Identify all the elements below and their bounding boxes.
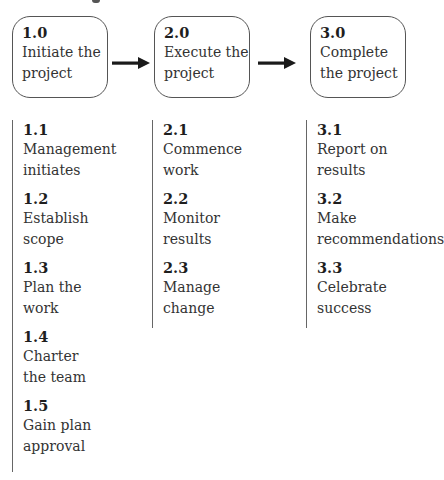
task-number: 3.3	[317, 258, 444, 277]
phase-box-execute: 2.0 Execute the project	[154, 16, 250, 98]
task-label: Monitor results	[163, 208, 242, 250]
task-label: Plan the work	[23, 277, 117, 319]
right-arrow-icon	[258, 57, 296, 69]
task-number: 1.5	[23, 396, 117, 415]
task-list-execute: 2.1 Commence work 2.2 Monitor results 2.…	[152, 120, 242, 328]
phase-title: Execute the project	[164, 42, 249, 84]
task-item: 1.2 Establish scope	[23, 189, 117, 250]
task-list-complete: 3.1 Report on results 3.2 Make recommend…	[306, 120, 444, 328]
task-item: 3.1 Report on results	[317, 120, 444, 181]
phase-number: 2.0	[164, 24, 249, 42]
task-item: 1.1 Management initiates	[23, 120, 117, 181]
phase-title: Initiate the project	[22, 42, 107, 84]
task-item: 1.3 Plan the work	[23, 258, 117, 319]
task-number: 3.1	[317, 120, 444, 139]
task-item: 2.2 Monitor results	[163, 189, 242, 250]
task-label: Gain plan approval	[23, 415, 117, 457]
task-item: 1.5 Gain plan approval	[23, 396, 117, 457]
task-number: 1.4	[23, 327, 117, 346]
task-item: 2.3 Manage change	[163, 258, 242, 319]
task-label: Establish scope	[23, 208, 117, 250]
task-label: Manage change	[163, 277, 242, 319]
task-item: 3.3 Celebrate success	[317, 258, 444, 319]
phase-number: 3.0	[320, 24, 405, 42]
task-number: 1.1	[23, 120, 117, 139]
task-item: 2.1 Commence work	[163, 120, 242, 181]
task-number: 3.2	[317, 189, 444, 208]
task-label: Management initiates	[23, 139, 117, 181]
task-list-initiate: 1.1 Management initiates 1.2 Establish s…	[12, 120, 117, 472]
task-number: 1.2	[23, 189, 117, 208]
phase-box-complete: 3.0 Complete the project	[310, 16, 406, 98]
task-item: 3.2 Make recommendations	[317, 189, 444, 250]
cropped-text-fragment	[92, 0, 100, 3]
task-label: Make recommendations	[317, 208, 444, 250]
task-number: 2.3	[163, 258, 242, 277]
phase-title: Complete the project	[320, 42, 405, 84]
task-number: 2.1	[163, 120, 242, 139]
right-arrow-icon	[112, 57, 150, 69]
task-number: 2.2	[163, 189, 242, 208]
task-label: Celebrate success	[317, 277, 444, 319]
task-label: Report on results	[317, 139, 444, 181]
task-label: Charter the team	[23, 346, 117, 388]
task-item: 1.4 Charter the team	[23, 327, 117, 388]
phase-box-initiate: 1.0 Initiate the project	[12, 16, 108, 98]
task-number: 1.3	[23, 258, 117, 277]
phase-number: 1.0	[22, 24, 107, 42]
task-label: Commence work	[163, 139, 242, 181]
